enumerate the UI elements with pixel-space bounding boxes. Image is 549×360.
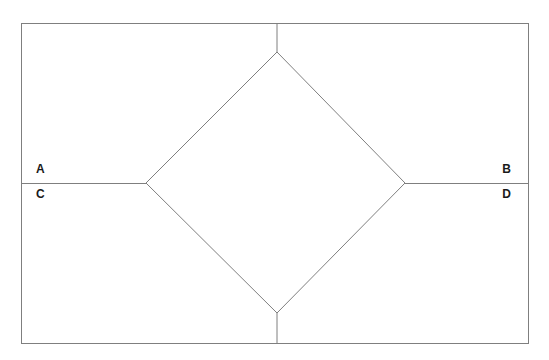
vertex-label-d: D [502, 188, 511, 200]
figure-canvas: A B C D [0, 0, 549, 360]
geometry-figure-svg [0, 0, 549, 360]
inner-diamond [146, 52, 405, 313]
vertex-label-c: C [36, 188, 45, 200]
vertex-label-b: B [502, 163, 511, 175]
vertex-label-a: A [36, 163, 45, 175]
